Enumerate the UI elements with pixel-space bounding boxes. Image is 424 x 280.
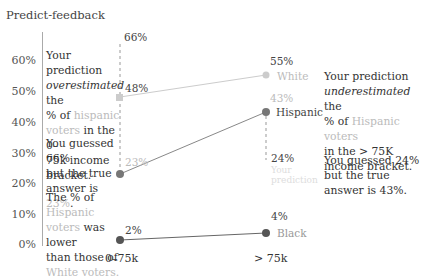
right-note-guess: You guessed 24% but the true answer is 4… <box>324 153 424 198</box>
black-right-point <box>262 229 270 237</box>
white-right-point <box>263 72 270 79</box>
x-tick-0-75k: 0–75k <box>105 252 138 265</box>
white-right-label: 55% <box>270 55 293 67</box>
black-right-label: 4% <box>271 210 288 222</box>
white-left-label: 48% <box>125 82 148 94</box>
x-tick-over-75k: > 75k <box>254 252 287 265</box>
pred-left-label: 66% <box>124 31 147 43</box>
pred-right-name: Your prediction <box>271 165 321 185</box>
pred-right-label: 24% <box>271 152 294 164</box>
hispanic-right-point <box>262 108 270 116</box>
hispanic-series-name: Hispanic <box>276 106 323 118</box>
hispanic-right-label: 43% <box>270 92 293 104</box>
black-series-name: Black <box>277 227 307 239</box>
left-note-comparison: The % of Hispanic voters was lower than … <box>46 190 128 280</box>
hispanic-left-label: 23% <box>125 156 148 168</box>
white-series-name: White <box>277 70 308 82</box>
black-left-label: 2% <box>125 224 142 236</box>
